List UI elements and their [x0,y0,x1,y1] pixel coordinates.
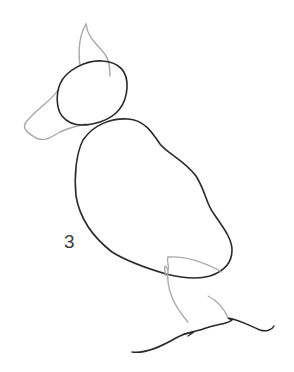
ground-stroke [132,318,274,352]
tail-guide-stroke [168,257,222,272]
body-outline [75,119,232,278]
head-outline [57,61,127,125]
ground-notch [184,332,194,336]
ear-stroke [79,24,110,76]
bird-sketch [0,0,294,372]
sketch-label: 3 [64,232,75,251]
beak-stroke [24,90,86,140]
leg-stroke-right [208,296,228,318]
